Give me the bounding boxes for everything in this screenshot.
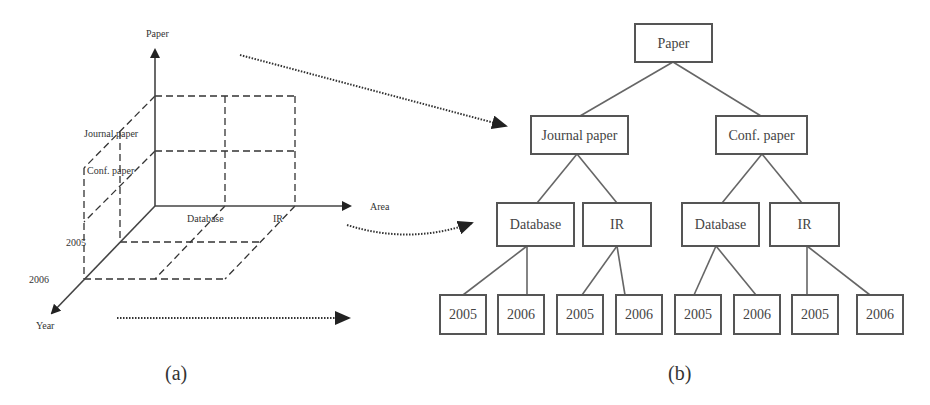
year-axis [52,206,155,313]
tree-node-journal-paper: Journal paper [531,116,628,154]
year-label-2006: 2006 [29,274,49,285]
tree-node-label: Conf. paper [728,128,794,143]
tree-node-root: Paper [635,24,712,62]
tree-edge [694,246,716,295]
year-axis-label: Year [36,320,55,331]
tree-node-ir: IR [770,203,839,246]
hierarchy-tree: Paper Journal paper Conf. paper Database… [440,24,903,385]
paper-label-conf: Conf. paper [87,165,135,176]
tree-edge [807,246,870,295]
tree-node-database: Database [497,203,574,246]
tree-node-label: 2006 [625,307,653,322]
paper-label-journal: Journal paper [84,128,139,139]
tree-node-label: IR [798,217,813,232]
tree-edge [716,246,756,295]
tree-node-label: IR [610,217,625,232]
tree-edge [722,154,762,203]
tree-node-ir: IR [583,203,651,246]
tree-node-label: Paper [658,36,690,51]
tree-edge [617,246,625,295]
tree-node-conf-paper: Conf. paper [716,116,807,154]
caption-b: (b) [668,362,691,385]
tree-edge [673,62,761,116]
tree-edge [580,62,673,116]
tree-node-year: 2006 [498,295,544,334]
tree-edge [577,154,617,203]
tree-edge [582,246,617,295]
figure: Paper Area Year Journal paper Conf. pape… [0,0,930,405]
tree-node-year: 2005 [557,295,603,334]
area-axis-label: Area [370,201,390,212]
tree-node-label: 2005 [801,307,829,322]
tree-node-year: 2006 [734,295,780,334]
tree-node-label: Database [510,217,561,232]
tree-node-label: 2005 [566,307,594,322]
tree-edge [463,246,527,295]
tree-edge [537,154,577,203]
paper-axis-label: Paper [146,28,169,39]
connector-area-arrow [347,223,472,235]
tree-node-label: Journal paper [542,128,618,143]
area-label-database: Database [187,213,224,224]
caption-a: (a) [165,362,187,385]
tree-node-label: 2005 [684,307,712,322]
tree-node-label: 2006 [866,307,894,322]
tree-node-database: Database [682,203,759,246]
tree-node-year: 2006 [857,295,903,334]
tree-node-year: 2005 [675,295,721,334]
tree-node-label: Database [695,217,746,232]
tree-node-label: 2006 [743,307,771,322]
tree-node-year: 2005 [792,295,838,334]
year-label-2005: 2005 [66,237,86,248]
connector-paper-arrow [240,55,506,126]
tree-node-label: 2006 [507,307,535,322]
tree-node-year: 2006 [616,295,662,334]
tree-node-label: 2005 [449,307,477,322]
tree-edge [762,154,802,203]
area-label-ir: IR [273,213,283,224]
tree-node-year: 2005 [440,295,486,334]
